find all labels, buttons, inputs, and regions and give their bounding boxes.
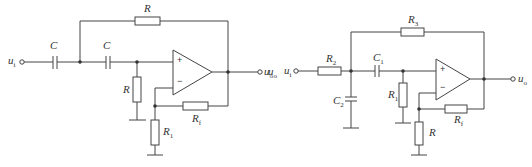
left-c2-label: C — [103, 40, 110, 51]
right-opamp-plus: + — [440, 65, 445, 74]
left-r1-label: R1 — [163, 126, 173, 140]
left-circuit — [20, 17, 262, 155]
left-rf-label: Rf — [192, 113, 201, 127]
right-circuit — [294, 28, 515, 155]
right-r3-label: R3 — [408, 14, 418, 28]
right-c1-label: C1 — [373, 52, 384, 66]
left-input-terminal — [20, 60, 24, 64]
right-input-label: ui — [284, 65, 291, 79]
left-input-label: ui — [8, 55, 15, 69]
circuit-diagram: ui C C R R Rf R1 uo + − uo ui R2 R3 C1 C… — [0, 0, 532, 167]
left-opamp-plus: + — [177, 56, 182, 65]
right-r2-label: R2 — [326, 53, 336, 67]
right-rf-label: Rf — [454, 114, 463, 128]
right-c2-label: C2 — [333, 95, 344, 109]
right-opamp-minus: − — [440, 83, 445, 92]
left-opamp-minus: − — [177, 77, 182, 86]
right-r-label: R — [429, 127, 436, 138]
right-output-label: uo — [518, 73, 527, 87]
left-r-top-label: R — [144, 3, 151, 14]
right-r1-label: R1 — [388, 89, 398, 103]
circuit-drawing — [0, 0, 532, 167]
right-stray-label: uo — [268, 66, 277, 80]
left-r-shunt-label: R — [123, 84, 130, 95]
left-c1-label: C — [50, 40, 57, 51]
